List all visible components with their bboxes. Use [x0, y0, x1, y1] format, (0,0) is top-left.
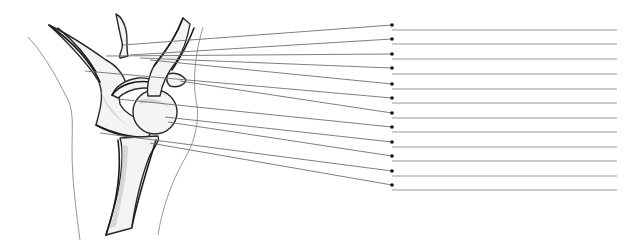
label-2 — [130, 37, 617, 55]
label-dot — [390, 169, 394, 173]
leader-line — [123, 25, 392, 45]
label-dot — [390, 23, 394, 27]
label-dot — [390, 82, 394, 86]
leader-line — [106, 54, 392, 56]
leader-line — [150, 143, 392, 185]
leader-line — [168, 122, 392, 156]
label-12 — [150, 143, 617, 190]
label-dot — [390, 125, 394, 129]
diagram-canvas — [0, 0, 641, 242]
label-dot — [390, 66, 394, 70]
label-dot — [390, 96, 394, 100]
femur — [106, 136, 159, 235]
label-1 — [123, 23, 617, 45]
label-8 — [118, 99, 617, 132]
label-dot — [390, 154, 394, 158]
hip-anatomy-diagram — [0, 0, 641, 242]
label-dot — [390, 111, 394, 115]
label-dot — [390, 37, 394, 41]
label-11 — [100, 133, 617, 176]
label-dot — [390, 140, 394, 144]
leader-line — [165, 117, 392, 142]
label-dot — [390, 52, 394, 56]
label-dot — [390, 183, 394, 187]
